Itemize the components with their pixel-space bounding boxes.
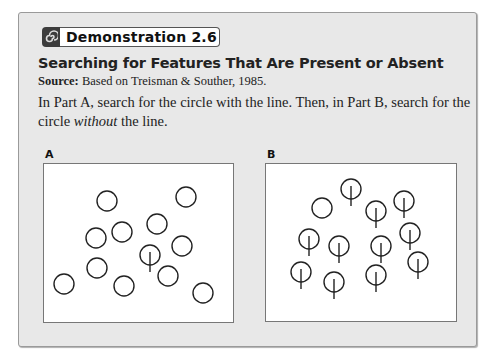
circle-with-line <box>299 229 319 256</box>
circle-with-line <box>366 201 386 228</box>
circle <box>86 228 106 248</box>
circle-with-line <box>400 223 420 250</box>
circle-with-line <box>408 252 428 279</box>
circle-with-line <box>394 191 414 218</box>
circle <box>112 222 132 242</box>
circle <box>312 198 332 218</box>
circle-with-line <box>371 236 391 263</box>
circle <box>176 187 196 207</box>
circle <box>158 266 178 286</box>
circle <box>114 276 134 296</box>
circle <box>87 258 107 278</box>
circle-with-line <box>366 265 386 292</box>
circle <box>54 274 74 294</box>
circle-with-line <box>291 262 311 289</box>
circle <box>147 214 167 234</box>
stimulus-circles <box>0 0 497 359</box>
circle <box>172 236 192 256</box>
circle-with-line <box>329 236 349 263</box>
circle <box>193 283 213 303</box>
circle-with-line <box>140 245 160 272</box>
circle-with-line <box>341 179 361 206</box>
circle-with-line <box>324 272 344 299</box>
circle <box>97 191 117 211</box>
